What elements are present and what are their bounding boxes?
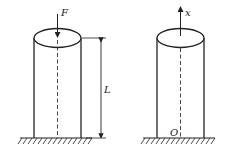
- diagram: F L x O: [0, 0, 226, 154]
- left-column: F L: [18, 7, 111, 144]
- length-label: L: [103, 84, 111, 95]
- right-column: x O: [141, 7, 215, 144]
- ground-hatch: [141, 138, 215, 144]
- origin-label: O: [170, 127, 178, 138]
- x-axis-label: x: [185, 7, 191, 18]
- force-label: F: [60, 7, 69, 18]
- ground-hatch: [18, 138, 92, 144]
